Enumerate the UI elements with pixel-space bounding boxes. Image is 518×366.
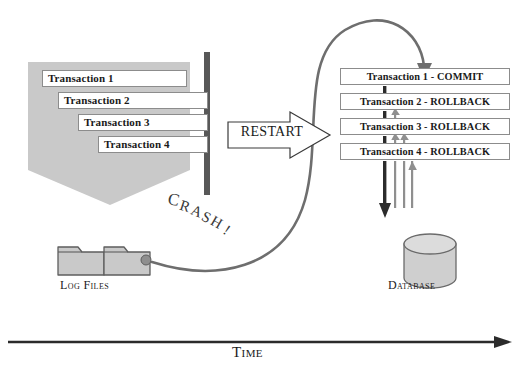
left-transaction-box-3[interactable]: Transaction 3	[78, 114, 208, 131]
database-label: Database	[388, 278, 435, 293]
time-axis-label: Time	[232, 344, 263, 361]
left-transaction-box-4[interactable]: Transaction 4	[98, 136, 208, 153]
left-transaction-box-2[interactable]: Transaction 2	[58, 92, 208, 109]
dark-timeline-seg-4	[383, 161, 386, 208]
diagram-canvas: Transaction 1 Transaction 2 Transaction …	[0, 0, 518, 366]
right-transaction-box-4[interactable]: Transaction 4 - ROLLBACK	[340, 143, 510, 160]
crash-label: C R A S H !	[168, 186, 288, 236]
dark-timeline-arrowhead	[379, 203, 391, 218]
log-curve-anchor-dot	[141, 255, 151, 265]
right-transaction-box-1[interactable]: Transaction 1 - COMMIT	[340, 68, 510, 85]
left-transaction-box-1[interactable]: Transaction 1	[42, 70, 187, 87]
log-folder-icon-2	[104, 247, 151, 275]
rollback-arrow-t4	[394, 161, 417, 208]
right-transaction-box-3[interactable]: Transaction 3 - ROLLBACK	[340, 118, 510, 135]
restart-label[interactable]: RESTART	[232, 124, 312, 140]
log-folder-icon-1	[58, 247, 104, 275]
right-transaction-box-2[interactable]: Transaction 2 - ROLLBACK	[340, 93, 510, 110]
diagram-vector-layer	[0, 0, 518, 366]
log-files-label: Log Files	[60, 278, 109, 293]
